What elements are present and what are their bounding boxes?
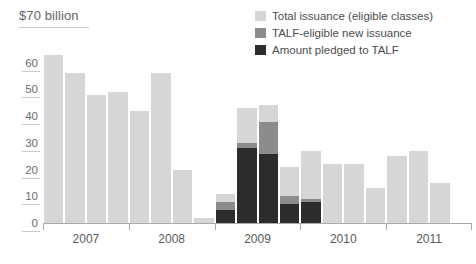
bar-column[interactable] [280, 36, 299, 223]
bar-segment-pledged-to-talf [237, 148, 256, 223]
y-tick-rule [22, 97, 40, 98]
bar-column[interactable] [409, 36, 428, 223]
y-tick-label: 60 [25, 57, 38, 69]
y-tick-rule [22, 71, 40, 72]
bar-segment-talf-eligible [280, 196, 299, 204]
y-tick-rule [22, 124, 40, 125]
y-tick-rule [22, 231, 40, 232]
bar-segment-pledged-to-talf [259, 154, 278, 223]
bar-segment-total-issuance [366, 188, 385, 223]
bar-segment-talf-eligible [216, 202, 235, 210]
bar-column[interactable] [323, 36, 342, 223]
chart-container: $70 billion Total issuance (eligible cla… [0, 0, 476, 264]
bar-column[interactable] [259, 36, 278, 223]
legend-item-total-issuance: Total issuance (eligible classes) [255, 9, 433, 23]
y-tick-label: 30 [25, 137, 38, 149]
bar-segment-total-issuance [259, 105, 278, 121]
legend-label-total-issuance: Total issuance (eligible classes) [272, 11, 433, 22]
y-tick-rule [22, 178, 40, 179]
bar-segment-talf-eligible [259, 122, 278, 154]
x-tick-mark [129, 223, 130, 230]
bar-segment-total-issuance [87, 95, 106, 223]
x-axis-year-label: 2011 [416, 232, 442, 246]
bar-segment-total-issuance [323, 164, 342, 223]
x-axis-year-label: 2010 [330, 232, 357, 246]
x-tick-mark [386, 223, 387, 230]
x-tick-mark [471, 223, 472, 230]
x-tick-mark [300, 223, 301, 230]
bar-segment-total-issuance [130, 111, 149, 223]
bar-segment-total-issuance [151, 73, 170, 223]
y-tick-label: 50 [25, 83, 38, 95]
bar-segment-pledged-to-talf [301, 202, 320, 223]
bar-segment-pledged-to-talf [280, 204, 299, 223]
x-tick-mark [43, 223, 44, 230]
plot-area [43, 36, 472, 223]
x-axis-labels: 20072008200920102011 [43, 232, 472, 254]
bar-segment-total-issuance [237, 108, 256, 143]
legend-swatch-total-issuance [255, 11, 266, 21]
bar-column[interactable] [65, 36, 84, 223]
bar-column[interactable] [87, 36, 106, 223]
bar-segment-total-issuance [173, 170, 192, 223]
bar-column[interactable] [430, 36, 449, 223]
bar-column[interactable] [108, 36, 127, 223]
x-axis-year-label: 2007 [73, 232, 100, 246]
bar-column[interactable] [194, 36, 213, 223]
bar-segment-total-issuance [409, 151, 428, 223]
y-tick-label: 20 [25, 164, 38, 176]
bar-column[interactable] [216, 36, 235, 223]
bar-segment-total-issuance [216, 194, 235, 202]
y-tick-label: 0 [32, 217, 38, 229]
x-tick-mark [215, 223, 216, 230]
bar-column[interactable] [237, 36, 256, 223]
bar-column[interactable] [151, 36, 170, 223]
bar-column[interactable] [366, 36, 385, 223]
bar-column[interactable] [130, 36, 149, 223]
bar-column[interactable] [387, 36, 406, 223]
bar-segment-total-issuance [65, 73, 84, 223]
y-tick-rule [22, 151, 40, 152]
bar-column[interactable] [344, 36, 363, 223]
y-tick-rule [22, 204, 40, 205]
bar-segment-total-issuance [108, 92, 127, 223]
y-axis: 0102030405060 [0, 0, 43, 264]
bar-segment-total-issuance [44, 55, 63, 223]
bar-segment-total-issuance [387, 156, 406, 223]
bar-column[interactable] [301, 36, 320, 223]
bar-segment-total-issuance [430, 183, 449, 223]
bar-segment-total-issuance [344, 164, 363, 223]
y-tick-label: 40 [25, 110, 38, 122]
x-axis-year-label: 2008 [158, 232, 185, 246]
y-tick-label: 10 [25, 190, 38, 202]
bar-series-group [43, 36, 472, 223]
x-axis-year-label: 2009 [244, 232, 271, 246]
bar-column[interactable] [44, 36, 63, 223]
bar-segment-total-issuance [301, 151, 320, 199]
bar-column[interactable] [452, 36, 471, 223]
bar-column[interactable] [173, 36, 192, 223]
x-axis-ticks [43, 223, 472, 230]
bar-segment-pledged-to-talf [216, 210, 235, 223]
bar-segment-total-issuance [280, 167, 299, 196]
